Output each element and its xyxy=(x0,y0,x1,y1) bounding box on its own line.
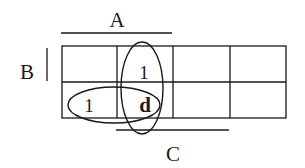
cell-r1-c0: 1 xyxy=(84,95,94,116)
label-c: C xyxy=(166,142,180,166)
label-a: A xyxy=(109,8,125,32)
cell-r1-c1: d xyxy=(139,93,151,117)
label-b: B xyxy=(20,60,34,84)
map-grid xyxy=(62,46,286,118)
cell-r0-c1: 1 xyxy=(139,62,149,83)
karnaugh-map: A B C 1 1 d xyxy=(0,0,305,168)
